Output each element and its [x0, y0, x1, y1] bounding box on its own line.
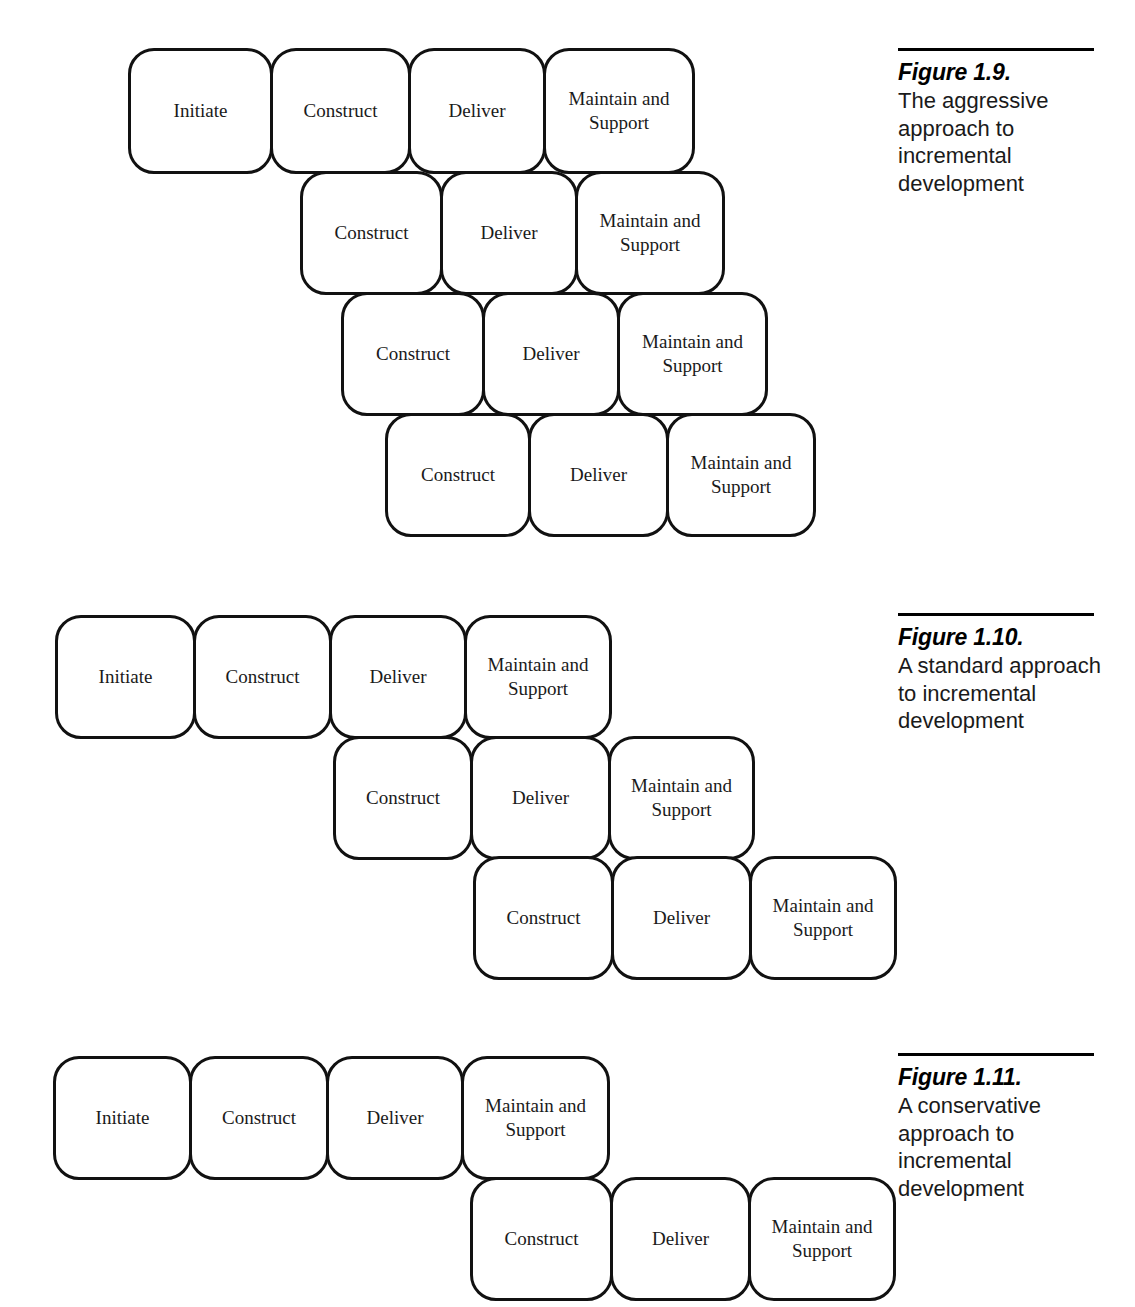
stage-label: Maintain and Support [766, 1215, 879, 1264]
figure-1-11-row-2: Construct Deliver Maintain and Support [470, 1177, 896, 1301]
caption-text: A conservative approach to incremental d… [898, 1092, 1108, 1203]
figure-1-11-caption: Figure 1.11. A conservative approach to … [898, 1053, 1108, 1203]
stage-box[interactable]: Deliver [326, 1056, 464, 1180]
figure-1-11-row-1: Initiate Construct Deliver Maintain and … [53, 1056, 610, 1180]
stage-box[interactable]: Construct [189, 1056, 329, 1180]
caption-number: Figure 1.11. [898, 1063, 1108, 1091]
stage-box[interactable]: Maintain and Support [461, 1056, 610, 1180]
stage-box[interactable]: Maintain and Support [748, 1177, 896, 1301]
stage-box[interactable]: Initiate [53, 1056, 192, 1180]
stage-label: Maintain and Support [479, 1094, 592, 1143]
stage-label: Deliver [646, 1227, 715, 1251]
stage-label: Deliver [361, 1106, 430, 1130]
stage-label: Construct [499, 1227, 585, 1251]
figure-1-11-block: Initiate Construct Deliver Maintain and … [0, 0, 1135, 1307]
stage-box[interactable]: Deliver [610, 1177, 751, 1301]
stage-label: Construct [216, 1106, 302, 1130]
figure-1-11-diagram: Initiate Construct Deliver Maintain and … [0, 0, 900, 1307]
stage-label: Initiate [90, 1106, 156, 1130]
stage-box[interactable]: Construct [470, 1177, 613, 1301]
caption-rule [898, 1053, 1094, 1056]
